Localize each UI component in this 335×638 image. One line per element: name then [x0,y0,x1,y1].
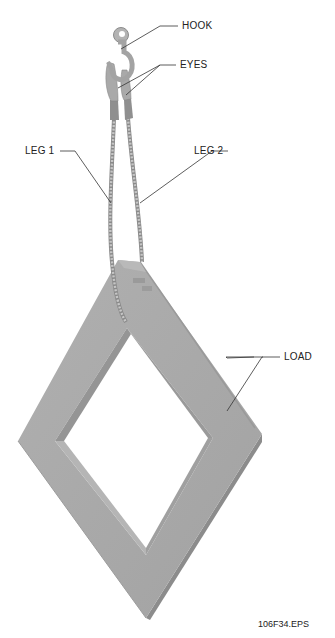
load-frame [18,260,262,620]
callout-load: LOAD [284,351,312,362]
rigging-diagram [0,0,335,638]
hook-icon [108,28,132,80]
figure-id: 106F34.EPS [258,619,309,629]
callout-leg-1: LEG 1 [25,145,54,156]
callout-eyes: EYES [180,59,207,70]
callout-hook: HOOK [182,20,212,31]
callout-leg-2: LEG 2 [194,145,223,156]
